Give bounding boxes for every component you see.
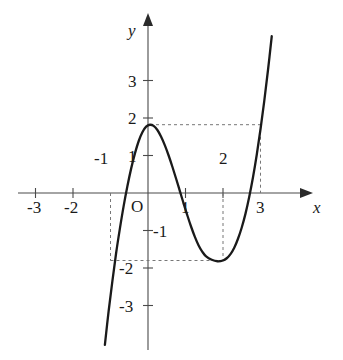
x-axis-arrowhead [300, 188, 313, 198]
x-axis-label: x [313, 199, 321, 216]
cubic-function-graph-figure: y x O -3 -2 -1 1 2 3 3 2 1 -1 -2 -3 [0, 0, 343, 360]
origin-label: O [131, 198, 143, 215]
y-tick-label--1: -1 [153, 223, 167, 240]
x-tick-label--3: -3 [27, 199, 41, 216]
x-tick-label-1: 1 [181, 199, 190, 216]
x-tick-label-2: 2 [219, 150, 228, 167]
x-tick-label-3: 3 [256, 199, 265, 216]
y-tick-label--3: -3 [119, 298, 133, 315]
y-axis-arrowhead [143, 13, 153, 26]
x-tick-label--2: -2 [64, 199, 78, 216]
plot-canvas [0, 0, 343, 360]
y-tick-label-1: 1 [128, 148, 137, 165]
x-tick-label--1: -1 [94, 150, 108, 167]
y-tick-label-2: 2 [128, 110, 137, 127]
y-tick-label-3: 3 [128, 73, 137, 90]
y-tick-label--2: -2 [119, 260, 133, 277]
y-axis-label: y [128, 22, 136, 39]
